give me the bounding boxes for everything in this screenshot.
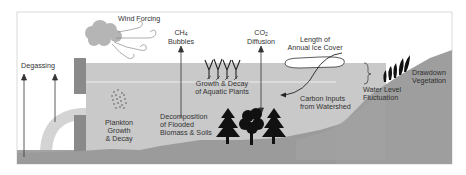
decomposition-label: Decomposition of Flooded Biomass & Soils [160,113,212,137]
drawdown-line2: Vegetation [412,76,446,85]
reservoir-carbon-diagram: Wind Forcing Degassing CH4 Bubbles CO2 D… [0,0,466,175]
aquatic-plants-label: Growth & Decay of Aquatic Plants [190,80,254,96]
co2-diffusion-label: CO2 Diffusion [245,29,277,46]
ice-cover-label: Length of Annual Ice Cover [285,36,345,52]
water-level-label: Water Level Fluctuation [363,86,401,102]
ch4-bubbles-label: CH4 Bubbles [166,29,196,46]
degassing-label: Degassing [21,62,55,70]
plankton-label: Plankton Growth & Decay [100,119,138,143]
dam-upper [74,58,86,94]
aquatic-plants-line2: of Aquatic Plants [195,87,249,96]
ch4-bubbles-text: Bubbles [168,37,194,46]
dam-lower [74,115,86,152]
decomposition-line3: Biomass & Soils [160,128,212,137]
water-level-line2: Fluctuation [363,93,398,102]
drawdown-vegetation-label: Drawdown Vegetation [412,69,446,85]
plankton-line3: & Decay [105,134,132,143]
carbon-inputs-label: Carbon Inputs from Watershed [300,95,351,111]
co2-diffusion-text: Diffusion [247,37,275,46]
ice-cover-icon [285,57,344,68]
ch4-formula: CH [174,28,184,37]
carbon-inputs-line2: from Watershed [300,102,351,111]
wind-forcing-label: Wind Forcing [118,15,160,23]
co2-formula: CO [254,28,265,37]
ice-cover-line2: Annual Ice Cover [287,43,342,52]
